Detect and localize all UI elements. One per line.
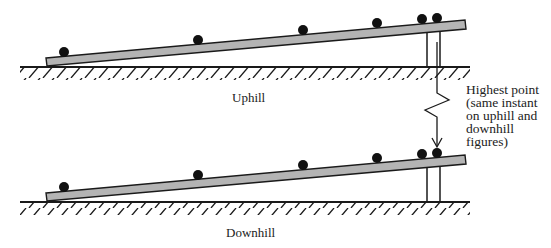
ball	[193, 170, 203, 180]
ball	[432, 13, 442, 23]
ball	[59, 47, 69, 57]
ball	[417, 149, 427, 159]
ball	[372, 153, 382, 163]
downhill-label: Downhill	[226, 226, 275, 239]
ball	[193, 35, 203, 45]
downhill-panel	[20, 148, 470, 215]
annotation-line: figures)	[466, 135, 539, 148]
inclined-beam	[46, 155, 466, 201]
inclined-beam	[46, 20, 466, 66]
ball	[417, 14, 427, 24]
ball	[59, 182, 69, 192]
highest-point-annotation: Highest point (same instant on uphill an…	[466, 83, 539, 148]
ball	[432, 148, 442, 158]
ball	[298, 160, 308, 170]
uphill-label: Uphill	[232, 91, 265, 104]
uphill-panel	[20, 13, 470, 80]
ground-hatch	[20, 68, 470, 80]
arrow-shaft	[425, 42, 449, 146]
ground-hatch	[20, 203, 470, 215]
highest-point-arrow	[425, 42, 449, 147]
ball	[372, 18, 382, 28]
ball	[298, 25, 308, 35]
